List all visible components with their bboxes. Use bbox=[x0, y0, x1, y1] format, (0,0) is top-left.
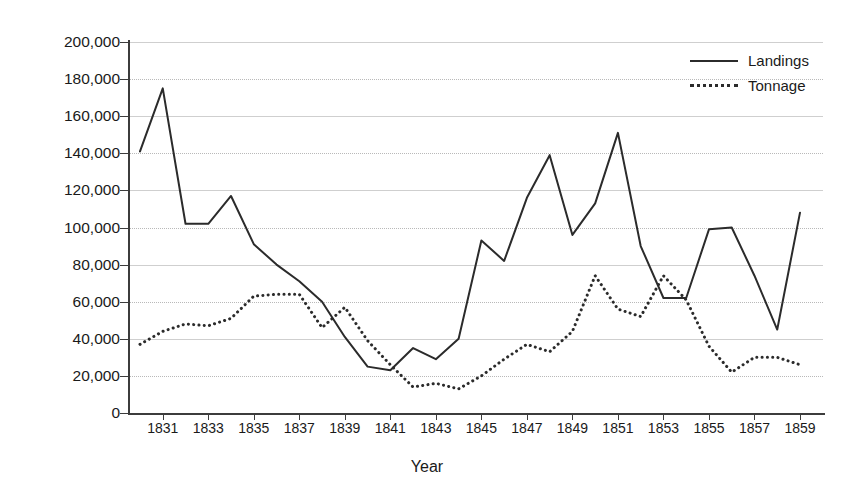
x-axis-tick-label: 1837 bbox=[277, 420, 321, 436]
x-axis-tick bbox=[800, 413, 801, 420]
y-axis-tick-label: 180,000 bbox=[22, 71, 120, 87]
x-axis-tick-label: 1847 bbox=[505, 420, 549, 436]
x-axis-tick bbox=[390, 413, 391, 420]
legend-item-tonnage: Tonnage bbox=[690, 73, 840, 98]
chart-legend: Landings Tonnage bbox=[690, 48, 840, 98]
y-axis-labels: 200,000180,000160,000140,000120,000100,0… bbox=[14, 0, 120, 496]
x-axis-tick bbox=[208, 413, 209, 420]
legend-swatch-dotted-icon bbox=[690, 84, 738, 87]
x-axis-tick-label: 1833 bbox=[186, 420, 230, 436]
x-axis-line bbox=[128, 413, 825, 415]
x-axis-tick-label: 1835 bbox=[232, 420, 276, 436]
x-axis-tick bbox=[436, 413, 437, 420]
x-axis-tick-label: 1853 bbox=[641, 420, 685, 436]
x-axis-tick-label: 1845 bbox=[459, 420, 503, 436]
y-axis-tick-label: 140,000 bbox=[22, 145, 120, 161]
x-axis-tick bbox=[299, 413, 300, 420]
y-axis-tick-label: 0 bbox=[22, 405, 120, 421]
x-axis-tick bbox=[572, 413, 573, 420]
line-chart: 200,000180,000160,000140,000120,000100,0… bbox=[0, 0, 854, 496]
y-axis-tick-label: 200,000 bbox=[22, 34, 120, 50]
x-axis-tick bbox=[618, 413, 619, 420]
y-axis-tick-label: 120,000 bbox=[22, 182, 120, 198]
x-axis-tick bbox=[481, 413, 482, 420]
x-axis-tick-label: 1839 bbox=[323, 420, 367, 436]
y-axis-tick-label: 80,000 bbox=[22, 257, 120, 273]
x-axis-tick bbox=[527, 413, 528, 420]
y-axis-tick-label: 160,000 bbox=[22, 108, 120, 124]
x-axis-tick-label: 1849 bbox=[550, 420, 594, 436]
x-axis-tick bbox=[345, 413, 346, 420]
x-axis-tick-label: 1831 bbox=[141, 420, 185, 436]
x-axis-tick bbox=[709, 413, 710, 420]
legend-label-landings: Landings bbox=[748, 52, 809, 69]
x-axis-tick bbox=[754, 413, 755, 420]
legend-swatch-solid-icon bbox=[690, 60, 738, 62]
x-axis-tick-label: 1843 bbox=[414, 420, 458, 436]
x-axis-tick-label: 1841 bbox=[368, 420, 412, 436]
y-axis-tick-label: 60,000 bbox=[22, 294, 120, 310]
x-axis-tick-label: 1859 bbox=[778, 420, 822, 436]
y-axis-tick-label: 20,000 bbox=[22, 368, 120, 384]
y-axis-tick-label: 40,000 bbox=[22, 331, 120, 347]
x-axis-title: Year bbox=[0, 458, 854, 476]
y-axis-tick-label: 100,000 bbox=[22, 220, 120, 236]
legend-item-landings: Landings bbox=[690, 48, 840, 73]
x-axis-tick-label: 1851 bbox=[596, 420, 640, 436]
x-axis-tick-label: 1857 bbox=[732, 420, 776, 436]
x-axis-tick bbox=[663, 413, 664, 420]
x-axis-tick bbox=[254, 413, 255, 420]
x-axis-tick bbox=[163, 413, 164, 420]
x-axis-tick-label: 1855 bbox=[687, 420, 731, 436]
legend-label-tonnage: Tonnage bbox=[748, 77, 806, 94]
